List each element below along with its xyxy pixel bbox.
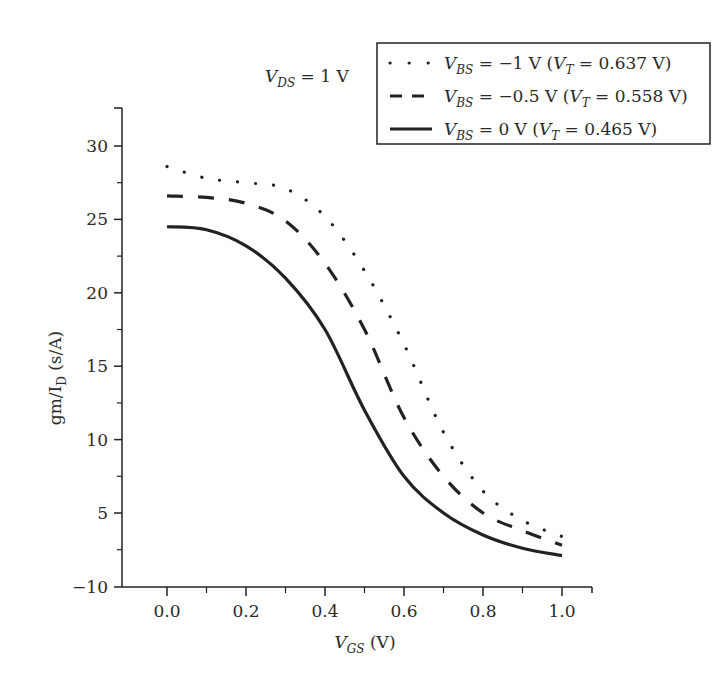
legend: VBS = −1 V (VT = 0.637 V)VBS = −0.5 V (V… — [377, 43, 710, 144]
x-tick-label: 0.4 — [311, 601, 338, 621]
x-tick-label: 0.6 — [390, 601, 417, 621]
curve-dotted — [167, 167, 562, 537]
y-tick-label: 30 — [86, 136, 108, 156]
y-tick-label: 10 — [86, 430, 108, 450]
gm-id-chart: 30252015105−100.00.20.40.60.81.0VGS (V)g… — [0, 0, 717, 687]
y-axis-label: gm/ID (s/A) — [45, 331, 69, 425]
vds-annotation: VDS = 1 V — [265, 66, 349, 90]
curve-solid — [167, 227, 562, 556]
x-tick-label: 1.0 — [548, 601, 575, 621]
y-tick-label: 20 — [86, 283, 108, 303]
y-tick-label: 15 — [86, 356, 108, 376]
y-tick-label-bottom: −10 — [72, 577, 108, 597]
vds-label: VDS = 1 V — [265, 66, 349, 90]
x-tick-label: 0.8 — [469, 601, 496, 621]
y-tick-label: 5 — [97, 503, 108, 523]
curves — [167, 167, 562, 556]
axes: 30252015105−100.00.20.40.60.81.0VGS (V)g… — [45, 108, 592, 656]
curve-dashed — [167, 196, 562, 545]
x-tick-label: 0.2 — [232, 601, 259, 621]
x-axis-label: VGS (V) — [334, 632, 395, 656]
x-tick-label: 0.0 — [153, 601, 180, 621]
y-tick-label: 25 — [86, 209, 108, 229]
